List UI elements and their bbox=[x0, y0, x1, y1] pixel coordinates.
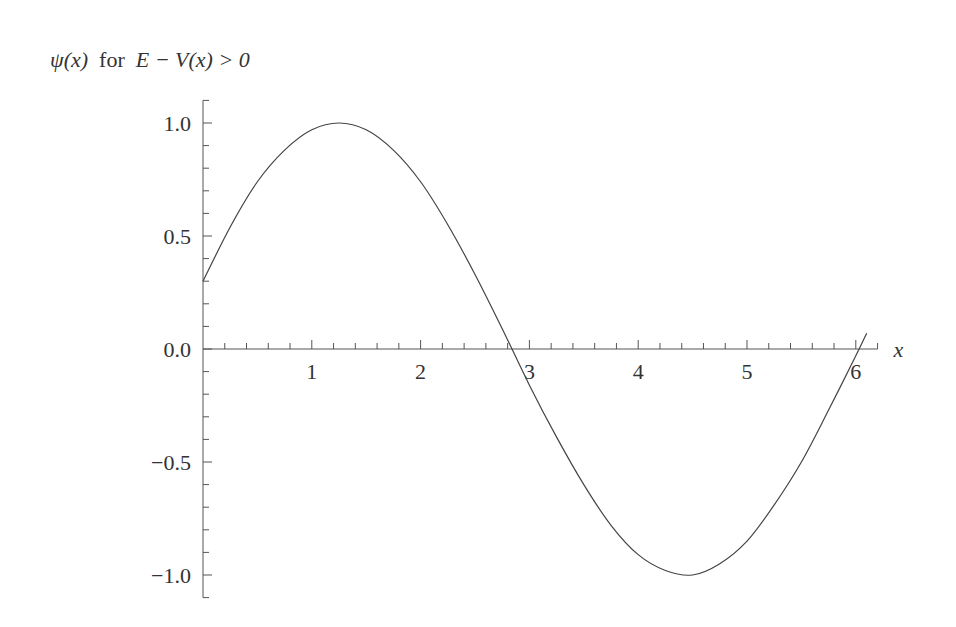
x-axis-label: x bbox=[893, 337, 904, 362]
y-tick-label: 1.0 bbox=[164, 111, 192, 136]
y-tick-label: −1.0 bbox=[151, 563, 191, 588]
x-tick-label: 5 bbox=[742, 359, 753, 384]
y-tick-label: −0.5 bbox=[151, 450, 191, 475]
plot-area: 1.00.50.0−0.5−1.0123456x bbox=[0, 0, 956, 627]
x-tick-label: 1 bbox=[306, 359, 317, 384]
x-tick-label: 4 bbox=[633, 359, 644, 384]
y-tick-label: 0.0 bbox=[164, 337, 192, 362]
y-tick-label: 0.5 bbox=[164, 224, 192, 249]
x-tick-label: 3 bbox=[524, 359, 535, 384]
x-tick-label: 2 bbox=[415, 359, 426, 384]
